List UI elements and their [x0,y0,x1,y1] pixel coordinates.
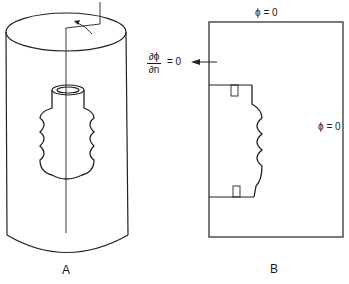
cylinder-left-edge [6,32,7,235]
fraction-denominator: ∂n [149,65,160,75]
fraction-numerator: ∂ϕ [149,52,160,62]
normal-derivative-fraction: ∂ϕ ∂n [147,52,161,75]
bellows-outline [40,90,94,179]
body-corrugated-profile [252,85,262,197]
right-boundary-condition: ϕ = 0 [318,121,341,132]
bc-arrowhead-icon [191,59,200,65]
bellows-top-rim-inner [57,87,79,93]
rotation-arrowhead-icon [74,20,80,25]
panel-a-label: A [62,263,70,277]
left-boundary-rhs: = 0 [167,56,181,67]
cylinder-bottom-arc [7,235,128,253]
top-notch [231,85,238,96]
diagram-canvas [0,0,349,284]
panel-a-cylinder [6,2,128,253]
bottom-notch [233,186,240,197]
panel-b-label: B [270,262,278,276]
cylinder-right-edge [126,32,128,235]
top-boundary-condition: ϕ = 0 [255,7,278,18]
